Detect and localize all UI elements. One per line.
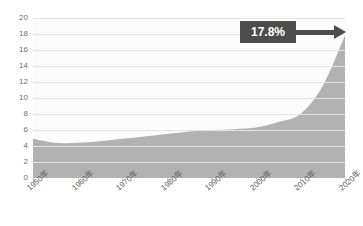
y-axis-tick-label: 4 [24,142,28,150]
gridline [33,18,345,19]
y-axis-tick-label: 2 [24,158,28,166]
gridline [33,66,345,67]
y-axis-tick-label: 8 [24,110,28,118]
y-axis-tick-label: 10 [19,94,28,102]
gridline [33,114,345,115]
gridline [33,82,345,83]
y-axis-tick-label: 20 [19,14,28,22]
gridline [33,130,345,131]
gridline [33,50,345,51]
area-series-path [33,36,345,178]
y-axis-tick-label: 18 [19,30,28,38]
plot-area [33,18,345,178]
y-axis-tick-label: 14 [19,62,28,70]
callout-arrow-head-icon [334,25,346,39]
callout-arrow-shaft [294,30,338,35]
y-axis: 20181614121086420 [0,0,33,200]
gridline [33,162,345,163]
value-callout-box: 17.8% [240,21,296,43]
value-callout-label: 17.8% [251,26,285,38]
y-axis-tick-label: 16 [19,46,28,54]
gridline [33,146,345,147]
y-axis-tick-label: 12 [19,78,28,86]
gridline [33,98,345,99]
x-axis: 1950年1960年1970年1980年1990年2000年2010年2020年 [0,180,355,226]
y-axis-tick-label: 6 [24,126,28,134]
